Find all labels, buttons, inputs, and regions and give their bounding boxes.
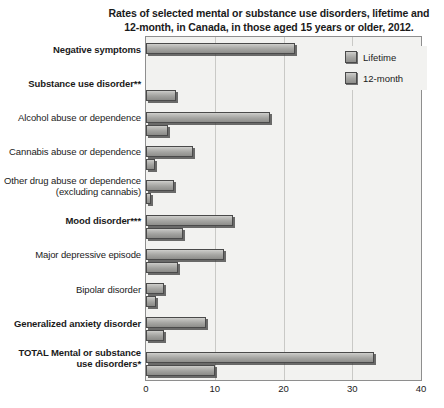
chart-container: Rates of selected mental or substance us… — [0, 0, 444, 408]
bar-12-month — [146, 228, 183, 239]
x-tick-label: 20 — [278, 383, 289, 394]
bar-group — [146, 311, 421, 345]
category-axis-labels: Negative symptomsSubstance use disorder*… — [0, 36, 141, 381]
bar-lifetime — [146, 180, 174, 191]
chart-title-line-2: 12-month, in Canada, in those aged 15 ye… — [104, 20, 434, 34]
chart-title-line-1: Rates of selected mental or substance us… — [104, 6, 434, 20]
chart-title: Rates of selected mental or substance us… — [104, 6, 434, 34]
category-label: Negative symptoms — [0, 44, 141, 55]
bar-lifetime — [146, 146, 193, 157]
bar-12-month — [146, 159, 155, 170]
category-label: TOTAL Mental or substanceuse disorders* — [0, 347, 141, 369]
category-label: Major depressive episode — [0, 249, 141, 260]
x-tick-label: 0 — [143, 383, 148, 394]
category-label-line: Cannabis abuse or dependence — [0, 146, 141, 157]
bar-group — [146, 106, 421, 140]
bar-lifetime — [146, 43, 295, 54]
category-label-line: Mood disorder*** — [0, 215, 141, 226]
bar-12-month — [146, 330, 164, 341]
category-label: Other drug abuse or dependence(excluding… — [0, 175, 141, 197]
bar-12-month — [146, 193, 151, 204]
legend-item: 12-month — [345, 72, 423, 84]
bar-12-month — [146, 365, 215, 376]
category-label: Alcohol abuse or dependence — [0, 112, 141, 123]
bar-lifetime — [146, 352, 374, 363]
category-label-line: Bipolar disorder — [0, 284, 141, 295]
bar-lifetime — [146, 112, 270, 123]
category-label-line: Other drug abuse or dependence — [0, 175, 141, 186]
bar-group — [146, 209, 421, 243]
legend-swatch-twelve_month — [345, 72, 357, 84]
bar-group — [146, 346, 421, 380]
bar-12-month — [146, 296, 156, 307]
category-label: Bipolar disorder — [0, 284, 141, 295]
category-label-line: TOTAL Mental or substance — [0, 347, 141, 358]
category-label: Generalized anxiety disorder — [0, 318, 141, 329]
category-label: Cannabis abuse or dependence — [0, 146, 141, 157]
x-tick-label: 10 — [209, 383, 220, 394]
legend-label: 12-month — [363, 73, 403, 84]
legend-swatch-lifetime — [345, 51, 357, 63]
category-label-line: Substance use disorder** — [0, 78, 141, 89]
bar-group — [146, 277, 421, 311]
category-label-line: (excluding cannabis) — [0, 186, 141, 197]
bar-lifetime — [146, 249, 224, 260]
bar-lifetime — [146, 215, 233, 226]
category-label-line: Generalized anxiety disorder — [0, 318, 141, 329]
x-tick-label: 30 — [347, 383, 358, 394]
x-tick-label: 40 — [416, 383, 427, 394]
bar-lifetime — [146, 283, 164, 294]
legend-item: Lifetime — [345, 51, 423, 63]
bar-group — [146, 174, 421, 208]
bar-group — [146, 243, 421, 277]
bar-lifetime — [146, 317, 206, 328]
legend-label: Lifetime — [363, 52, 396, 63]
bar-group — [146, 140, 421, 174]
category-label-line: Major depressive episode — [0, 249, 141, 260]
category-label-line: Negative symptoms — [0, 44, 141, 55]
chart-legend: Lifetime12-month — [340, 46, 427, 90]
category-label-line: Alcohol abuse or dependence — [0, 112, 141, 123]
bar-12-month — [146, 90, 176, 101]
bar-12-month — [146, 262, 178, 273]
category-label: Substance use disorder** — [0, 78, 141, 89]
bar-12-month — [146, 125, 168, 136]
category-label-line: use disorders* — [0, 358, 141, 369]
x-axis: 010203040 — [145, 383, 422, 403]
category-label: Mood disorder*** — [0, 215, 141, 226]
